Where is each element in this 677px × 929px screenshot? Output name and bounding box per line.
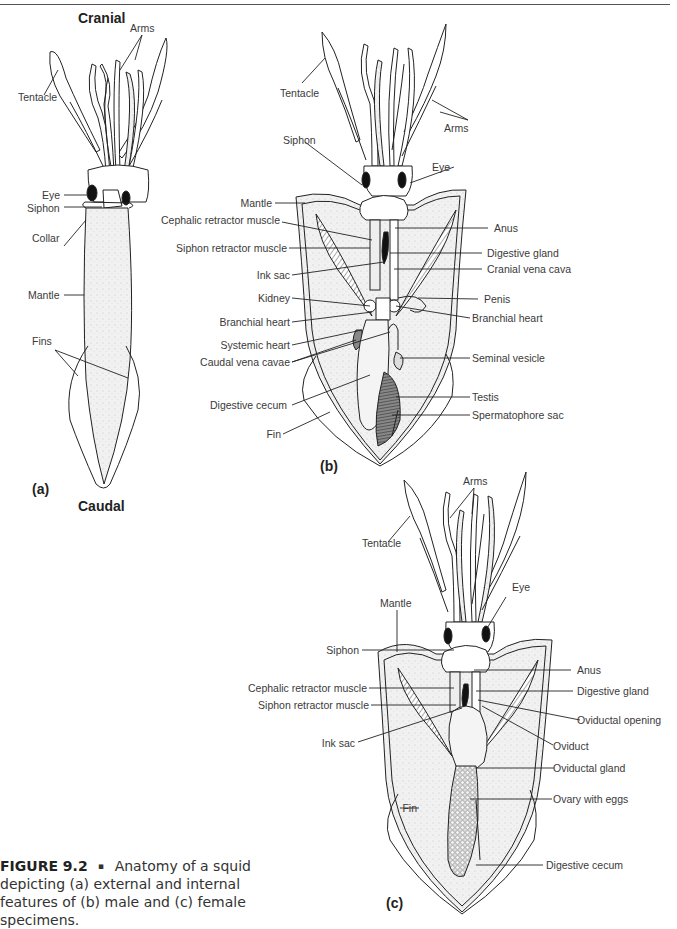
label-b-systemic-heart: Systemic heart xyxy=(221,339,290,351)
label-c-siphon-retractor-muscle: Siphon retractor muscle xyxy=(258,699,369,711)
figure-number: FIGURE 9.2 xyxy=(0,858,88,874)
label-b-cephalic-retractor-muscle: Cephalic retractor muscle xyxy=(161,214,280,226)
label-b-digestive-cecum: Digestive cecum xyxy=(210,399,287,411)
label-b-fin: Fin xyxy=(266,428,281,440)
figure-caption: FIGURE 9.2 ▪ Anatomy of a squid depictin… xyxy=(0,857,300,929)
label-c-digestive-cecum: Digestive cecum xyxy=(546,859,623,871)
label-b-branchial-heart-left: Branchial heart xyxy=(219,316,290,328)
panel-c-id: (c) xyxy=(386,895,403,911)
squid-c-drawing xyxy=(378,472,552,914)
label-b-branchial-heart-right: Branchial heart xyxy=(472,312,543,324)
label-b-caudal-vena-cavae: Caudal vena cavae xyxy=(200,356,290,368)
label-c-oviduct: Oviduct xyxy=(553,740,589,752)
label-c-arms: Arms xyxy=(463,475,488,487)
label-b-cranial-vena-cava: Cranial vena cava xyxy=(487,263,571,275)
label-b-siphon-retractor-muscle: Siphon retractor muscle xyxy=(176,242,287,254)
label-c-digestive-gland: Digestive gland xyxy=(577,685,649,697)
label-b-anus: Anus xyxy=(494,222,518,234)
squid-a-drawing xyxy=(50,38,167,488)
label-c-tentacle: Tentacle xyxy=(362,537,401,549)
label-b-testis: Testis xyxy=(472,391,499,403)
label-b-siphon: Siphon xyxy=(283,134,316,146)
label-a-tentacle: Tentacle xyxy=(18,91,57,103)
label-a-collar: Collar xyxy=(32,232,59,244)
label-b-spermatophore-sac: Spermatophore sac xyxy=(472,409,564,421)
label-c-cephalic-retractor-muscle: Cephalic retractor muscle xyxy=(248,682,367,694)
panel-b-id: (b) xyxy=(320,458,338,474)
label-c-fin: Fin xyxy=(402,802,417,814)
label-b-arms: Arms xyxy=(444,122,469,134)
label-a-siphon: Siphon xyxy=(27,202,60,214)
label-a-fins: Fins xyxy=(32,335,52,347)
label-c-ovary-with-eggs: Ovary with eggs xyxy=(553,793,628,805)
label-a-mantle: Mantle xyxy=(28,289,60,301)
squid-b-drawing xyxy=(296,24,466,466)
label-c-eye: Eye xyxy=(512,581,530,593)
label-a-arms: Arms xyxy=(130,22,155,34)
label-c-ink-sac: Ink sac xyxy=(322,737,355,749)
caudal-label: Caudal xyxy=(78,500,125,512)
panel-a-id: (a) xyxy=(32,481,49,497)
label-c-siphon: Siphon xyxy=(326,644,359,656)
label-b-seminal-vesicle: Seminal vesicle xyxy=(472,352,545,364)
label-b-eye: Eye xyxy=(432,161,450,173)
label-a-eye: Eye xyxy=(42,189,60,201)
label-b-ink-sac: Ink sac xyxy=(257,269,290,281)
label-b-kidney: Kidney xyxy=(258,292,290,304)
label-b-mantle: Mantle xyxy=(240,197,272,209)
label-c-oviductal-gland: Oviductal gland xyxy=(553,762,625,774)
label-b-tentacle: Tentacle xyxy=(280,87,319,99)
label-c-mantle: Mantle xyxy=(380,597,412,609)
caption-separator: ▪ xyxy=(98,861,104,871)
label-c-anus: Anus xyxy=(577,664,601,676)
label-b-penis: Penis xyxy=(484,293,510,305)
cranial-label: Cranial xyxy=(78,12,125,24)
label-c-oviductal-opening: Oviductal opening xyxy=(577,714,661,726)
label-b-digestive-gland: Digestive gland xyxy=(487,247,559,259)
